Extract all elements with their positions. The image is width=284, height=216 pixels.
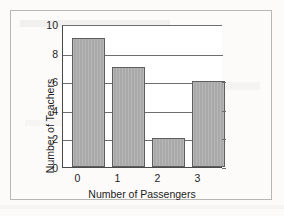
y-tick-label-8: 8 — [40, 49, 58, 59]
right-tick-2 — [222, 139, 226, 140]
x-tick-label-2: 2 — [143, 172, 173, 184]
right-tick-0 — [222, 168, 226, 169]
right-tick-6 — [222, 82, 226, 83]
plot-area — [62, 25, 222, 168]
x-axis-title: Number of Passengers — [62, 188, 222, 200]
x-tick-label-1: 1 — [103, 172, 133, 184]
bar-chart: 10 8 6 4 2 0 0 1 2 3 Numb — [0, 0, 284, 216]
y-tick-label-10: 10 — [40, 20, 58, 30]
bar-category-1 — [112, 67, 145, 167]
y-axis-title-wrapper: Number of Teachers — [28, 30, 42, 160]
x-tick-label-3: 3 — [183, 172, 213, 184]
bar-category-2 — [152, 138, 185, 167]
bar-category-0 — [72, 38, 105, 167]
x-tick-label-0: 0 — [63, 172, 93, 184]
bar-category-3 — [192, 81, 225, 167]
y-axis-title: Number of Teachers — [44, 61, 56, 191]
right-tick-4 — [222, 111, 226, 112]
screenshot-canvas: 10 8 6 4 2 0 0 1 2 3 Numb — [0, 0, 284, 216]
